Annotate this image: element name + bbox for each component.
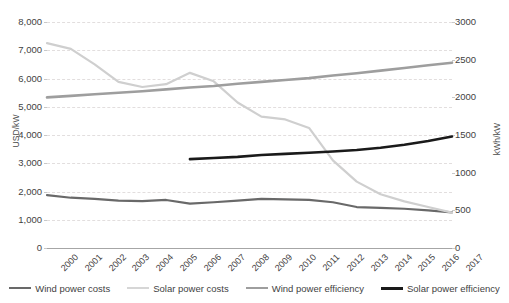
- plot-lines: [0, 0, 509, 303]
- chart-legend: Wind power costsSolar power costsWind po…: [0, 280, 509, 296]
- legend-label: Wind power costs: [35, 283, 110, 294]
- legend-item[interactable]: Wind power costs: [9, 283, 110, 294]
- legend-swatch-icon: [127, 287, 149, 289]
- series-line: [190, 137, 452, 160]
- legend-label: Solar power efficiency: [407, 283, 500, 294]
- legend-label: Wind power efficiency: [272, 283, 364, 294]
- legend-item[interactable]: Solar power costs: [127, 283, 229, 294]
- chart-container: USD/kW kWh/kW 01,0002,0003,0004,0005,000…: [0, 0, 509, 303]
- legend-item[interactable]: Wind power efficiency: [246, 283, 364, 294]
- legend-item[interactable]: Solar power efficiency: [381, 283, 500, 294]
- legend-swatch-icon: [9, 287, 31, 289]
- legend-label: Solar power costs: [153, 283, 229, 294]
- legend-swatch-icon: [246, 287, 268, 289]
- legend-swatch-icon: [381, 287, 403, 290]
- series-line: [47, 63, 452, 98]
